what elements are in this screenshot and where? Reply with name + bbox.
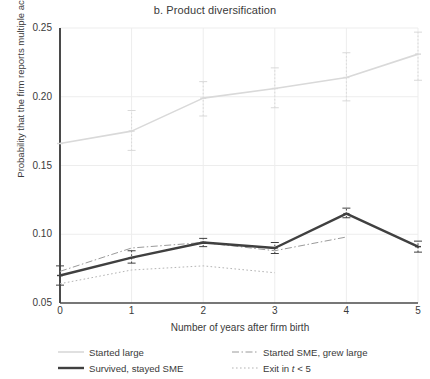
legend-item[interactable]: Exit in t < 5 bbox=[232, 360, 368, 376]
legend-item[interactable]: Started large bbox=[58, 344, 183, 360]
x-axis-tick-label: 3 bbox=[263, 305, 287, 316]
x-axis-label: Number of years after firm birth bbox=[60, 322, 420, 333]
legend-swatch-dash-dot bbox=[232, 346, 258, 358]
x-axis-tick-label: 2 bbox=[191, 305, 215, 316]
legend-column: Started SME, grew largeExit in t < 5 bbox=[232, 344, 368, 376]
legend-item-label: Survived, stayed SME bbox=[89, 363, 183, 374]
x-axis-tick-label: 4 bbox=[334, 305, 358, 316]
legend-swatch bbox=[232, 346, 258, 358]
series-line-started-large bbox=[60, 54, 418, 143]
x-axis-tick-label: 1 bbox=[120, 305, 144, 316]
legend-column: Started largeSurvived, stayed SME bbox=[58, 344, 183, 376]
legend-swatch bbox=[232, 362, 258, 374]
legend-item-label: Started large bbox=[89, 347, 144, 358]
legend-item-label: Started SME, grew large bbox=[263, 347, 368, 358]
legend-swatch bbox=[58, 362, 84, 374]
legend-swatch-solid-thick-dark bbox=[58, 362, 84, 374]
x-axis-tick-label: 0 bbox=[48, 305, 72, 316]
chart-legend: Started largeSurvived, stayed SMEStarted… bbox=[0, 344, 430, 379]
legend-item[interactable]: Survived, stayed SME bbox=[58, 360, 183, 376]
legend-item-label: Exit in t < 5 bbox=[263, 363, 311, 374]
chart-container: b. Product diversification Probability t… bbox=[0, 0, 430, 379]
x-axis-tick-label: 5 bbox=[406, 305, 430, 316]
legend-swatch bbox=[58, 346, 84, 358]
legend-swatch-dotted bbox=[232, 362, 258, 374]
series-line-survived-stayed-sme bbox=[60, 214, 418, 276]
legend-item[interactable]: Started SME, grew large bbox=[232, 344, 368, 360]
legend-swatch-solid-thin-light bbox=[58, 346, 84, 358]
